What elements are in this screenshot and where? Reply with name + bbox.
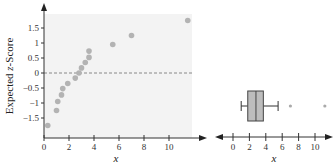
box-plot-body [241,91,326,121]
x-axis-label: x [113,152,119,164]
x-axis-label: x [271,152,277,164]
data-point [129,33,135,39]
data-point [185,18,191,24]
probability-plot: −1.5−1−0.500.511.5 0246810 Expected z-Sc… [3,3,207,164]
x-tick-label: 10 [165,142,175,152]
data-point [60,86,66,92]
box-plot: 0246810 x [215,91,333,164]
data-point [79,65,85,71]
x-tick-label: 0 [231,142,236,152]
outlier-point [323,104,326,107]
number-line-ticks: 0246810 [231,133,320,152]
number-line-left-arrow-icon [215,134,223,140]
y-axis-label: Expected z-Score [3,38,15,115]
x-tick-label: 8 [296,142,301,152]
figure: −1.5−1−0.500.511.5 0246810 Expected z-Sc… [0,0,336,167]
y-tick-label: 0 [35,68,40,78]
x-axis-arrow-icon [199,135,207,141]
x-tick-label: 4 [264,142,269,152]
data-point [86,55,92,61]
data-point [86,48,92,54]
data-point [110,42,116,48]
data-point [54,108,60,114]
y-label-part: Expected [3,71,15,115]
x-tick-label: 6 [280,142,285,152]
y-tick-label: 1 [35,38,40,48]
y-tick-label: −1 [29,98,39,108]
x-tick-label: 6 [117,142,122,152]
x-tick-label: 4 [92,142,97,152]
plot-background [44,14,192,138]
x-tick-label: 2 [247,142,252,152]
y-tick-label: 1.5 [28,23,40,33]
data-point [59,92,65,98]
data-point [65,81,71,87]
y-tick-label: −1.5 [23,113,40,123]
y-ticks: −1.5−1−0.500.511.5 [23,23,44,123]
y-label-part: -Score [3,38,15,67]
x-tick-label: 10 [311,142,321,152]
number-line-right-arrow-icon [325,134,333,140]
x-tick-label: 0 [42,142,47,152]
data-point [45,123,51,129]
data-point [55,99,61,105]
y-tick-label: 0.5 [28,53,40,63]
y-axis-arrow-icon [41,3,47,11]
x-tick-label: 2 [67,142,72,152]
outlier-point [289,104,292,107]
data-point [76,70,82,76]
data-point [72,75,78,81]
y-tick-label: −0.5 [23,83,40,93]
x-tick-label: 8 [142,142,147,152]
data-point [82,60,88,66]
